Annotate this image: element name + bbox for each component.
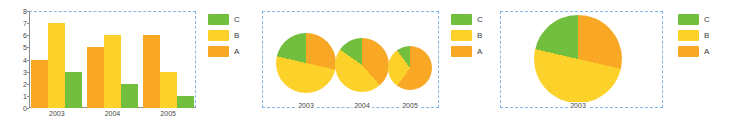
large-pie-panel[interactable]: 2003: [500, 11, 663, 108]
pie-2004[interactable]: [335, 38, 389, 92]
pie-series-area: 200320042005: [262, 11, 439, 108]
bar-chart-legend: CBA: [208, 14, 240, 57]
large-pie-area: 2003: [500, 11, 663, 108]
legend-swatch-b-icon: [451, 30, 472, 41]
pie-2003[interactable]: [276, 33, 336, 93]
bar-b-2004[interactable]: [104, 35, 121, 108]
legend-swatch-a-icon: [208, 46, 229, 57]
large-pie-legend-item-a[interactable]: A: [678, 46, 710, 57]
charts-canvas: 012345678 200320042005 CBA 200320042005 …: [0, 0, 739, 133]
x-axis-labels: 200320042005: [29, 110, 196, 117]
legend-label: A: [704, 46, 709, 57]
pie-label-2004: 2004: [352, 102, 372, 109]
bar-group-2005[interactable]: [143, 11, 194, 108]
legend-label: B: [704, 30, 709, 41]
legend-label: C: [477, 14, 483, 25]
pie-series-legend-item-c[interactable]: C: [451, 14, 483, 25]
legend-label: A: [234, 46, 239, 57]
bar-c-2005[interactable]: [177, 96, 194, 108]
legend-label: C: [234, 14, 240, 25]
x-axis-label-2005: 2005: [143, 110, 194, 117]
large-pie-legend-item-c[interactable]: C: [678, 14, 710, 25]
bar-b-2003[interactable]: [48, 23, 65, 108]
bar-legend-item-a[interactable]: A: [208, 46, 240, 57]
pie-series-legend-item-a[interactable]: A: [451, 46, 483, 57]
legend-swatch-b-icon: [678, 30, 699, 41]
bar-chart-panel[interactable]: 012345678 200320042005: [29, 11, 196, 108]
large-pie-legend-item-b[interactable]: B: [678, 30, 710, 41]
legend-label: C: [704, 14, 710, 25]
large-pie-legend: CBA: [678, 14, 710, 57]
y-axis-tick-mark: [27, 108, 29, 109]
bar-c-2003[interactable]: [65, 72, 82, 108]
bar-legend-item-c[interactable]: C: [208, 14, 240, 25]
pie-label-2003: 2003: [296, 102, 316, 109]
pie-series-legend-item-b[interactable]: B: [451, 30, 483, 41]
bar-plot-area: 012345678: [29, 11, 196, 108]
legend-label: A: [477, 46, 482, 57]
bar-c-2004[interactable]: [121, 84, 138, 108]
bar-a-2003[interactable]: [31, 60, 48, 109]
bar-a-2005[interactable]: [143, 35, 160, 108]
legend-swatch-a-icon: [451, 46, 472, 57]
pie-2003[interactable]: [534, 15, 622, 103]
legend-label: B: [477, 30, 482, 41]
legend-swatch-b-icon: [208, 30, 229, 41]
bar-b-2005[interactable]: [160, 72, 177, 108]
legend-swatch-a-icon: [678, 46, 699, 57]
bar-group-2004[interactable]: [87, 11, 138, 108]
legend-label: B: [234, 30, 239, 41]
bar-a-2004[interactable]: [87, 47, 104, 108]
pie-label-2003: 2003: [568, 102, 588, 109]
pie-series-panel[interactable]: 200320042005: [262, 11, 439, 108]
legend-swatch-c-icon: [678, 14, 699, 25]
bar-group-2003[interactable]: [31, 11, 82, 108]
legend-swatch-c-icon: [451, 14, 472, 25]
pie-series-legend: CBA: [451, 14, 483, 57]
pie-2005[interactable]: [388, 46, 432, 90]
pie-label-2005: 2005: [400, 102, 420, 109]
bar-groups: [29, 11, 196, 108]
x-axis-label-2004: 2004: [87, 110, 138, 117]
x-axis-label-2003: 2003: [31, 110, 82, 117]
bar-legend-item-b[interactable]: B: [208, 30, 240, 41]
legend-swatch-c-icon: [208, 14, 229, 25]
